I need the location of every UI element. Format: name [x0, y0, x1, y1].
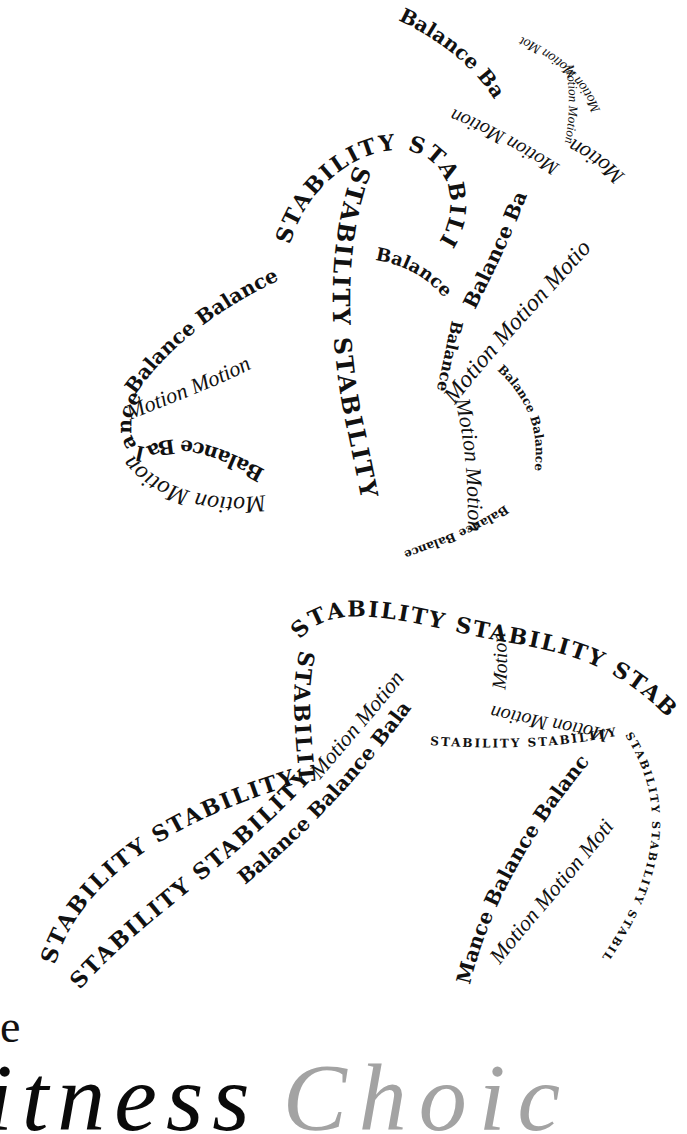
- word-stability-head: STABILITY STABILITY: [0, 0, 472, 254]
- word-motion-top2: Motion Motion: [447, 105, 563, 181]
- word-motion-vertical: Motion: [487, 632, 511, 691]
- word-motion-top3: Motion Motion: [562, 62, 581, 145]
- word-motion-top4: Motion: [564, 134, 629, 190]
- word-balance-ba-top: Balance Ba: [396, 3, 510, 103]
- figure-svg: Balance Ba Motion Motion Mot Motion Moti…: [0, 0, 687, 1000]
- title-word-choice: Choic: [283, 1044, 572, 1134]
- word-motion-top: Motion Motion Mot: [516, 34, 603, 116]
- word-balance-small-right: Balance Balance: [495, 362, 547, 472]
- title-word-fitness: itness: [0, 1044, 259, 1134]
- word-motion-torso: Motion Motion: [450, 395, 488, 532]
- word-stability-right-vertical: STABILITY STABILITY STABILITY: [0, 0, 662, 965]
- word-balance-head-right: Balance: [374, 243, 457, 301]
- word-balance-small-bottom: Balance Balance: [402, 503, 511, 563]
- typographic-figure: Balance Ba Motion Motion Mot Motion Moti…: [0, 0, 687, 1000]
- title-line2: itnessChoic: [0, 1050, 572, 1134]
- word-stability-spine: STABILITY STABILITY: [327, 163, 385, 502]
